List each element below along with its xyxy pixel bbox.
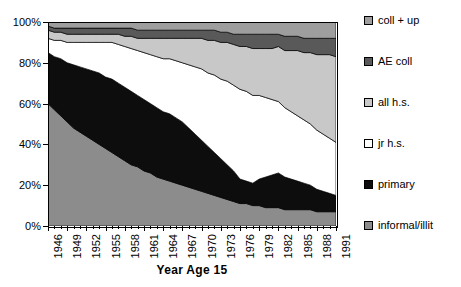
x-tick-label: 1949 [72, 234, 83, 258]
x-tick-minor [99, 226, 100, 229]
x-tick-minor [150, 226, 151, 229]
x-tick-minor [272, 226, 273, 229]
legend-item[interactable]: jr h.s. [364, 137, 405, 149]
x-tick-minor [253, 226, 254, 229]
legend-swatch-icon [364, 180, 373, 189]
legend-label: AE coll [378, 56, 412, 67]
chart-container: 0%20%40%60%80%100% 194619491952195519581… [0, 0, 461, 287]
x-tick-minor [195, 226, 196, 229]
legend-item[interactable]: coll + up [364, 14, 419, 26]
x-tick-minor [74, 226, 75, 229]
x-tick-minor [246, 226, 247, 229]
x-tick-minor [80, 226, 81, 229]
x-tick-minor [61, 226, 62, 229]
x-tick-minor [208, 226, 209, 229]
y-tick-label: 60% [19, 98, 41, 109]
legend-item[interactable]: informal/illit [364, 219, 433, 231]
y-tick-label: 40% [19, 139, 41, 150]
legend-label: informal/illit [378, 220, 433, 231]
x-tick-minor [93, 226, 94, 229]
x-tick-major [336, 226, 337, 231]
x-tick-minor [304, 226, 305, 229]
x-tick-minor [323, 226, 324, 229]
x-tick-minor [330, 226, 331, 229]
x-tick-label: 1988 [322, 234, 333, 258]
legend-swatch-icon [364, 16, 373, 25]
x-tick-label: 1955 [111, 234, 122, 258]
x-tick-minor [54, 226, 55, 229]
x-tick-label: 1952 [91, 234, 102, 258]
x-tick-label: 1958 [130, 234, 141, 258]
x-tick-major [48, 226, 49, 231]
x-tick-minor [214, 226, 215, 229]
y-tick-label: 0% [25, 221, 41, 232]
chart-legend: coll + upAE collall h.s.jr h.s.primaryin… [364, 14, 460, 246]
stacked-area-svg [48, 22, 336, 226]
x-tick-major [317, 226, 318, 231]
x-tick-major [163, 226, 164, 231]
legend-label: coll + up [378, 15, 419, 26]
x-tick-major [221, 226, 222, 231]
x-tick-minor [112, 226, 113, 229]
x-tick-label: 1970 [207, 234, 218, 258]
y-axis: 0%20%40%60%80%100% [0, 0, 48, 287]
plot-area [48, 22, 336, 226]
x-tick-minor [189, 226, 190, 229]
legend-item[interactable]: all h.s. [364, 96, 410, 108]
legend-swatch-icon [364, 98, 373, 107]
legend-swatch-icon [364, 139, 373, 148]
x-tick-major [278, 226, 279, 231]
x-tick-label: 1961 [149, 234, 160, 258]
x-tick-minor [118, 226, 119, 229]
x-tick-minor [170, 226, 171, 229]
x-tick-major [240, 226, 241, 231]
x-tick-minor [291, 226, 292, 229]
x-tick-label: 1979 [264, 234, 275, 258]
x-tick-major [259, 226, 260, 231]
x-tick-major [106, 226, 107, 231]
legend-item[interactable]: primary [364, 178, 415, 190]
x-tick-label: 1985 [303, 234, 314, 258]
x-tick-minor [266, 226, 267, 229]
x-tick-minor [227, 226, 228, 229]
x-axis: 1946194919521955195819611964196719701973… [48, 226, 338, 287]
x-tick-label: 1973 [226, 234, 237, 258]
legend-label: all h.s. [378, 97, 410, 108]
x-tick-label: 1967 [187, 234, 198, 258]
x-tick-major [86, 226, 87, 231]
legend-label: primary [378, 179, 415, 190]
x-tick-major [67, 226, 68, 231]
x-tick-label: 1982 [283, 234, 294, 258]
x-tick-major [202, 226, 203, 231]
y-tick-label: 100% [13, 17, 41, 28]
x-tick-label: 1964 [168, 234, 179, 258]
x-tick-minor [176, 226, 177, 229]
x-tick-minor [138, 226, 139, 229]
x-tick-major [144, 226, 145, 231]
legend-swatch-icon [364, 221, 373, 230]
x-tick-minor [285, 226, 286, 229]
x-tick-minor [234, 226, 235, 229]
x-axis-title: Year Age 15 [48, 263, 336, 277]
legend-item[interactable]: AE coll [364, 55, 412, 67]
x-tick-major [125, 226, 126, 231]
x-tick-major [182, 226, 183, 231]
x-tick-minor [157, 226, 158, 229]
legend-label: jr h.s. [378, 138, 405, 149]
x-tick-minor [131, 226, 132, 229]
legend-swatch-icon [364, 57, 373, 66]
x-tick-label: 1976 [245, 234, 256, 258]
y-tick-label: 20% [19, 180, 41, 191]
y-tick-label: 80% [19, 57, 41, 68]
x-tick-major [298, 226, 299, 231]
x-tick-label: 1946 [53, 234, 64, 258]
x-tick-label: 1991 [341, 234, 352, 258]
x-tick-minor [310, 226, 311, 229]
